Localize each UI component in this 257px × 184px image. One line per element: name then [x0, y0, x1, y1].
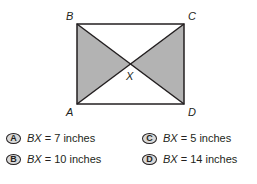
- shaded-triangle-left: [77, 24, 130, 104]
- choice-letter-badge: D: [142, 154, 157, 165]
- choice-letter-badge: B: [6, 154, 21, 165]
- choice-value: = 5 inches: [178, 132, 232, 144]
- shaded-triangle-right: [130, 24, 184, 104]
- vertex-label-a: A: [66, 107, 73, 118]
- rectangle-diagram: B C A D X: [0, 0, 257, 125]
- choice-variable: BX: [27, 153, 42, 165]
- choice-c[interactable]: C BX = 5 inches: [142, 132, 231, 144]
- choice-b[interactable]: B BX = 10 inches: [6, 153, 101, 165]
- choice-a[interactable]: A BX = 7 inches: [6, 132, 95, 144]
- choice-value: = 14 inches: [178, 153, 238, 165]
- choice-variable: BX: [163, 132, 178, 144]
- choice-letter-badge: A: [6, 133, 21, 144]
- choice-letter-badge: C: [142, 133, 157, 144]
- rectangle-abcd-figure: [0, 0, 257, 125]
- vertex-label-b: B: [66, 11, 73, 22]
- choice-d[interactable]: D BX = 14 inches: [142, 153, 237, 165]
- vertex-label-c: C: [188, 11, 196, 22]
- choice-value: = 10 inches: [42, 153, 102, 165]
- choice-variable: BX: [163, 153, 178, 165]
- choice-variable: BX: [27, 132, 42, 144]
- vertex-label-x: X: [126, 71, 133, 82]
- choice-value: = 7 inches: [42, 132, 96, 144]
- vertex-label-d: D: [188, 107, 196, 118]
